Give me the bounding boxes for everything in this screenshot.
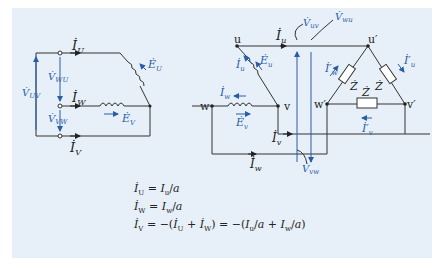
label-iU: İU [71,37,84,55]
label-VUV: V̇UV [22,87,41,100]
label-iu: İu [275,27,286,45]
label-iw: İw [249,156,262,173]
node-w-prime: w′ [314,98,326,111]
label-iv-load: İ′v [361,121,373,137]
equation-iW: İW = Iw/a [134,200,182,215]
label-iw-load: İ′w [324,61,338,77]
label-Z2: Ż [374,79,383,93]
label-Vuv: V̇uv [303,17,319,30]
label-Vvw: V̇vw [302,163,319,176]
label-Eu: Ėu [259,53,273,69]
equation-iU: İU = Iu/a [134,182,180,197]
node-w: w [200,100,210,113]
impedance-vw [357,98,377,108]
label-Ev: Ėv [235,115,248,131]
label-iW: İW [71,89,86,107]
label-EU: ĖU [147,57,163,73]
node-u: u [234,33,241,46]
label-Z1: Ż [349,79,358,93]
label-VVW: V̇VW [48,113,68,126]
equation-iV: İV = −(İU + İW) = −(Iu/a + Iw/a) [134,218,306,233]
label-Vwu: V̇wu [335,11,353,24]
node-u-prime: u′ [368,33,378,46]
label-EV: ĖV [121,111,136,127]
label-iu-phase: İu [235,57,245,73]
label-iv: İv [271,130,282,147]
label-Z3: Ż [361,85,370,99]
label-iu-load: İ′u [403,53,416,69]
node-v: v [283,100,291,113]
label-iV: İV [69,139,82,157]
label-VWU: V̇WU [48,71,69,84]
node-v-prime: v′ [406,98,416,111]
label-iw-phase: İw [219,85,230,101]
